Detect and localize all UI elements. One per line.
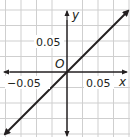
x-axis-label: x — [118, 75, 127, 89]
y-axis-label: y — [71, 8, 80, 22]
x-tick-label-neg-0-05: −0.05 — [7, 77, 41, 90]
y-tick-label-0-05: 0.05 — [36, 36, 61, 49]
grid — [0, 0, 130, 137]
coordinate-plane: y x O 0.05 −0.05 0.05 — [0, 0, 130, 137]
x-tick-label-0-05: 0.05 — [86, 77, 111, 90]
origin-label: O — [55, 57, 64, 71]
